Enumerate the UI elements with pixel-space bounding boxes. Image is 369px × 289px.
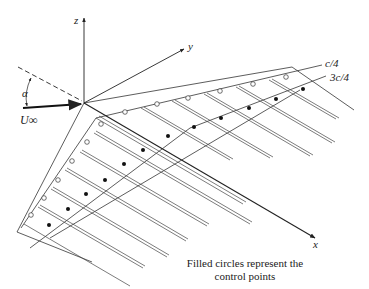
three-quarter-chord-label: 3c/4 [329, 71, 349, 83]
alpha-label: α [22, 87, 28, 99]
x-axis-label: x [312, 238, 318, 250]
caption-line-2: control points [215, 270, 276, 282]
quarter-chord-label: c/4 [325, 57, 339, 69]
y-axis-label: y [187, 40, 193, 52]
freestream-velocity-arrow [23, 104, 81, 108]
freestream-label: U∞ [20, 113, 38, 127]
z-axis-label: z [73, 14, 79, 26]
quarter-chord-line [21, 65, 322, 228]
vortex-lattice-diagram: z y x α U∞ c/4 3c/4 Filled circles repre… [0, 0, 369, 289]
coordinate-axes [84, 18, 315, 238]
x-axis [84, 103, 315, 238]
caption-line-1: Filled circles represent the [187, 257, 303, 269]
trailing-vortex-legs [24, 79, 339, 286]
wing-outline [17, 67, 354, 262]
y-axis [84, 49, 184, 103]
